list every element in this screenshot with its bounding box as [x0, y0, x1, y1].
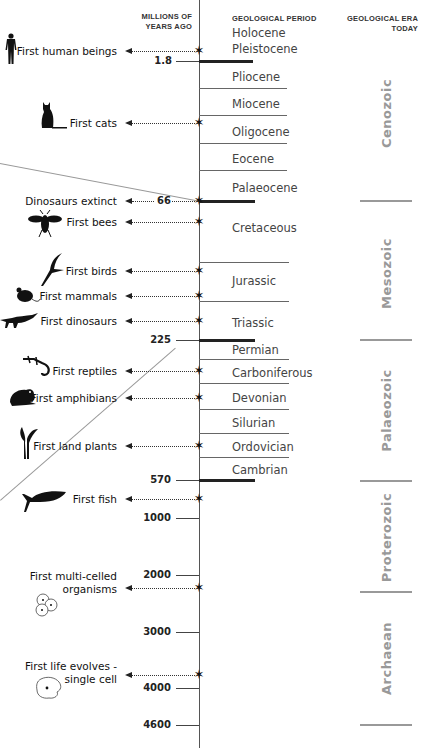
event-label-line1: First multi-celled — [30, 570, 117, 583]
star-marker-icon: ✶ — [193, 582, 205, 594]
multicell-icon — [34, 593, 60, 617]
era-separator-2500 — [360, 591, 412, 593]
event-first-human-beings: First human beings — [17, 45, 117, 58]
boundary-1.8 — [199, 60, 253, 63]
star-marker-icon: ✶ — [193, 440, 205, 452]
cat-icon — [39, 100, 69, 130]
event-first-fish: First fish — [73, 493, 117, 506]
header-mya: MILLIONS OF YEARS AGO — [134, 12, 192, 32]
event-first-bees: First bees — [67, 216, 118, 229]
arrowhead — [125, 496, 132, 502]
star-marker-icon: ✶ — [193, 290, 205, 302]
tick-4600 — [176, 725, 199, 726]
era-separator-4600 — [360, 724, 412, 726]
star-marker-icon: ✶ — [193, 117, 205, 129]
event-dinosaurs-extinct: Dinosaurs extinct — [25, 195, 117, 208]
era-separator-225 — [360, 339, 412, 341]
arrowhead — [125, 395, 132, 401]
event-arrow — [132, 123, 195, 124]
single-cell-icon — [35, 676, 63, 700]
star-marker-icon: ✶ — [193, 392, 205, 404]
arrowhead — [125, 443, 132, 449]
boundary-devonian-silurian — [199, 409, 289, 410]
boundary-jurassic-triassic — [199, 301, 289, 302]
tick-label-1.8: 1.8 — [112, 55, 172, 66]
era-mesozoic: Mesozoic — [379, 234, 394, 314]
star-marker-icon: ✶ — [193, 45, 205, 57]
tick-225 — [176, 340, 199, 341]
period-triassic: Triassic — [232, 316, 274, 330]
boundary-miocene-oligocene — [199, 115, 287, 116]
boundary-eocene-palaeocene — [199, 170, 287, 171]
event-first-reptiles: First reptiles — [52, 365, 117, 378]
tick-label-4600: 4600 — [111, 719, 171, 730]
event-arrow — [132, 371, 195, 372]
arrowhead — [125, 268, 132, 274]
period-holocene: Holocene — [232, 26, 286, 40]
star-marker-icon: ✶ — [193, 365, 205, 377]
era-separator-66 — [360, 200, 412, 202]
star-marker-icon: ✶ — [193, 315, 205, 327]
period-miocene: Miocene — [232, 97, 280, 111]
period-pleistocene: Pleistocene — [232, 42, 298, 56]
period-silurian: Silurian — [232, 416, 275, 430]
period-cretaceous: Cretaceous — [232, 221, 297, 235]
era-separator-570 — [360, 480, 412, 482]
boundary-cretaceous-jurassic — [199, 262, 289, 263]
header-era: GEOLOGICAL ERA TODAY — [336, 14, 418, 34]
tick-label-3000: 3000 — [111, 626, 171, 637]
period-eocene: Eocene — [232, 152, 274, 166]
star-marker-icon: ✶ — [193, 195, 205, 207]
header-mya-line1: MILLIONS OF — [134, 12, 192, 22]
event-arrow — [132, 296, 195, 297]
event-first-land-plants: First land plants — [33, 440, 117, 453]
period-palaeocene: Palaeocene — [232, 181, 298, 195]
boundary-225 — [199, 339, 255, 342]
event-first-mammals: First mammals — [40, 290, 117, 303]
arrowhead — [125, 318, 132, 324]
period-jurassic: Jurassic — [232, 274, 276, 288]
tick-label-570: 570 — [111, 474, 171, 485]
event-arrow — [132, 201, 154, 202]
plant-icon — [18, 425, 40, 459]
event-arrow — [132, 271, 195, 272]
period-carboniferous: Carboniferous — [232, 366, 313, 380]
period-pliocene: Pliocene — [232, 70, 280, 84]
fish-icon — [22, 488, 66, 514]
arrowhead — [125, 585, 132, 591]
event-first-amphibians: First amphibians — [31, 392, 117, 405]
event-arrow — [132, 51, 195, 52]
arrowhead — [125, 293, 132, 299]
era-palaeozoic: Palaeozoic — [379, 366, 394, 456]
event-arrow — [132, 499, 195, 500]
tick-3000 — [176, 632, 199, 633]
boundary-permian-carboniferous — [199, 359, 289, 360]
tick-label-2000: 2000 — [111, 569, 171, 580]
arrowhead — [125, 368, 132, 374]
arrowhead — [125, 198, 132, 204]
event-arrow — [132, 446, 195, 447]
boundary-pliocene-miocene — [199, 88, 287, 89]
tick-1000 — [176, 518, 199, 519]
arrowhead — [125, 219, 132, 225]
bee-icon — [28, 210, 62, 238]
header-era-line1: GEOLOGICAL ERA — [336, 14, 418, 24]
mouse-icon — [15, 286, 41, 304]
tick-1.8 — [176, 61, 199, 62]
period-devonian: Devonian — [232, 391, 287, 405]
event-arrow — [132, 222, 195, 223]
event-arrow — [132, 588, 195, 589]
tick-label-1000: 1000 — [111, 512, 171, 523]
event-arrow — [132, 398, 195, 399]
bird-icon — [40, 253, 66, 287]
period-permian: Permian — [232, 343, 279, 357]
event-label-line1: First life evolves - — [25, 660, 117, 673]
event-first-birds: First birds — [66, 265, 117, 278]
arrowhead — [125, 48, 132, 54]
star-marker-icon: ✶ — [193, 669, 205, 681]
era-archaean: Archaean — [379, 614, 394, 704]
tick-label-4000: 4000 — [111, 682, 171, 693]
human-icon — [4, 33, 18, 65]
period-cambrian: Cambrian — [232, 463, 288, 477]
period-ordovician: Ordovician — [232, 440, 294, 454]
